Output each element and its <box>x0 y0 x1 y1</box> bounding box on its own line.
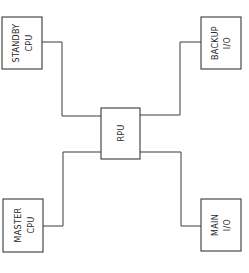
wire-main-to-rpu <box>140 152 201 226</box>
node-master-cpu: MASTER CPU <box>3 199 43 252</box>
master-cpu-label-line2: CPU <box>27 216 36 233</box>
node-standby-cpu: STANDBY CPU <box>2 17 42 69</box>
wire-standby-to-rpu <box>42 42 101 116</box>
backup-io-label-line1: BACKUP <box>211 26 220 60</box>
rpu-label: RPU <box>117 124 126 141</box>
node-main-io: MAIN I/O <box>201 199 241 251</box>
main-io-label-line2: I/O <box>223 219 232 231</box>
master-cpu-label-line1: MASTER <box>14 207 23 242</box>
standby-cpu-label-line1: STANDBY <box>12 24 21 63</box>
wire-backup-to-rpu <box>140 42 201 115</box>
block-diagram: STANDBY CPU BACKUP I/O RPU MASTER CPU MA… <box>0 0 249 273</box>
node-rpu: RPU <box>101 108 140 159</box>
wire-master-to-rpu <box>43 152 101 226</box>
node-backup-io: BACKUP I/O <box>201 17 241 69</box>
main-io-label-line1: MAIN <box>211 214 220 236</box>
backup-io-label-line2: I/O <box>223 37 232 49</box>
standby-cpu-label-line2: CPU <box>25 34 34 51</box>
